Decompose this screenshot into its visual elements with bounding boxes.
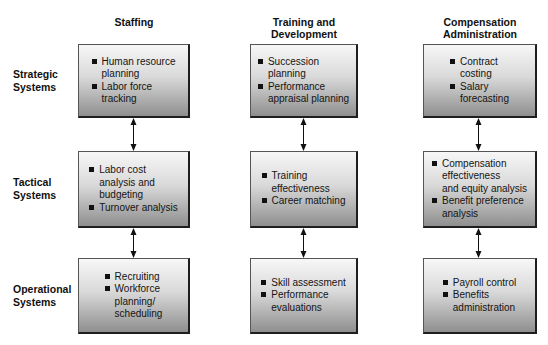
double-arrow-icon bbox=[299, 118, 308, 151]
bullet-icon bbox=[89, 205, 94, 210]
bullet-icon bbox=[450, 59, 455, 64]
bullet-icon bbox=[443, 280, 448, 285]
item-list: Labor cost analysis and budgeting Turnov… bbox=[89, 164, 178, 214]
bullet-icon bbox=[89, 167, 94, 172]
bullet-icon bbox=[262, 173, 267, 178]
bullet-icon bbox=[258, 59, 263, 64]
list-item: Benefits administration bbox=[443, 289, 516, 314]
bullet-icon bbox=[432, 161, 437, 166]
box-strategic-training: Succession planning Performance appraisa… bbox=[250, 44, 358, 118]
list-item: Recruiting bbox=[105, 271, 163, 284]
list-item: Career matching bbox=[262, 195, 346, 208]
double-arrow-icon bbox=[474, 228, 483, 258]
box-operational-staffing: Recruiting Workforce planning/ schedulin… bbox=[78, 258, 190, 334]
item-list: Skill assessment Performance evaluations bbox=[261, 277, 345, 315]
column-header-compensation-administration: Compensation Administration bbox=[423, 16, 537, 40]
list-item: Labor force tracking bbox=[92, 81, 176, 106]
list-item: Contract costing bbox=[450, 56, 509, 81]
list-item: Skill assessment bbox=[261, 277, 345, 290]
row-label-tactical: Tactical Systems bbox=[13, 176, 56, 202]
box-strategic-staffing: Human resource planning Labor force trac… bbox=[78, 44, 190, 118]
list-item: Compensation effectiveness and equity an… bbox=[432, 158, 527, 196]
list-item: Performance evaluations bbox=[261, 289, 345, 314]
bullet-icon bbox=[258, 84, 263, 89]
item-list: Training effectiveness Career matching bbox=[262, 170, 346, 208]
item-list: Recruiting Workforce planning/ schedulin… bbox=[105, 271, 163, 321]
double-arrow-icon bbox=[474, 118, 483, 151]
item-list: Succession planning Performance appraisa… bbox=[258, 56, 349, 106]
box-operational-training: Skill assessment Performance evaluations bbox=[250, 258, 358, 334]
item-list: Human resource planning Labor force trac… bbox=[92, 56, 176, 106]
bullet-icon bbox=[105, 286, 110, 291]
list-item: Labor cost analysis and budgeting bbox=[89, 164, 178, 202]
box-strategic-compensation: Contract costing Salary forecasting bbox=[423, 44, 537, 118]
bullet-icon bbox=[105, 274, 110, 279]
bullet-icon bbox=[450, 84, 455, 89]
bullet-icon bbox=[92, 84, 97, 89]
bullet-icon bbox=[262, 198, 267, 203]
list-item: Workforce planning/ scheduling bbox=[105, 283, 163, 321]
list-item: Salary forecasting bbox=[450, 81, 509, 106]
bullet-icon bbox=[261, 280, 266, 285]
box-tactical-training: Training effectiveness Career matching bbox=[250, 151, 358, 228]
column-header-staffing: Staffing bbox=[78, 16, 190, 28]
item-list: Compensation effectiveness and equity an… bbox=[432, 158, 527, 221]
list-item: Human resource planning bbox=[92, 56, 176, 81]
item-list: Payroll control Benefits administration bbox=[443, 277, 516, 315]
list-item: Payroll control bbox=[443, 277, 516, 290]
bullet-icon bbox=[92, 59, 97, 64]
box-tactical-compensation: Compensation effectiveness and equity an… bbox=[423, 151, 537, 228]
list-item: Succession planning bbox=[258, 56, 349, 81]
box-tactical-staffing: Labor cost analysis and budgeting Turnov… bbox=[78, 151, 190, 228]
list-item: Training effectiveness bbox=[262, 170, 346, 195]
box-operational-compensation: Payroll control Benefits administration bbox=[423, 258, 537, 334]
list-item: Turnover analysis bbox=[89, 202, 178, 215]
row-label-operational: Operational Systems bbox=[13, 283, 71, 309]
double-arrow-icon bbox=[129, 118, 138, 151]
bullet-icon bbox=[432, 198, 437, 203]
double-arrow-icon bbox=[299, 228, 308, 258]
bullet-icon bbox=[261, 292, 266, 297]
bullet-icon bbox=[443, 292, 448, 297]
row-label-strategic: Strategic Systems bbox=[13, 68, 58, 94]
double-arrow-icon bbox=[129, 228, 138, 258]
list-item: Benefit preference analysis bbox=[432, 195, 527, 220]
column-header-training-development: Training and Development bbox=[250, 16, 358, 40]
list-item: Performance appraisal planning bbox=[258, 81, 349, 106]
item-list: Contract costing Salary forecasting bbox=[450, 56, 509, 106]
